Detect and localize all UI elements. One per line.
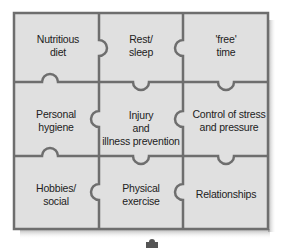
- piece-label: Hobbies/: [36, 182, 76, 195]
- piece-label: hygiene: [36, 121, 76, 134]
- piece-label: exercise: [122, 195, 160, 208]
- piece-label: 'free': [216, 33, 237, 46]
- puzzle-piece-icon: [146, 239, 158, 248]
- piece-label: diet: [37, 46, 79, 59]
- piece-control-of-stress: Control of stress and pressure: [192, 108, 265, 134]
- piece-personal-hygiene: Personal hygiene: [36, 108, 76, 134]
- piece-nutritious-diet: Nutritious diet: [37, 33, 79, 59]
- piece-free-time: 'free' time: [216, 33, 237, 59]
- piece-label: illness prevention: [102, 135, 180, 148]
- piece-rest-sleep: Rest/ sleep: [129, 33, 153, 59]
- piece-label: Personal: [36, 108, 76, 121]
- piece-label: Control of stress: [192, 108, 265, 121]
- piece-label: Rest/: [129, 33, 153, 46]
- piece-label: social: [36, 195, 76, 208]
- piece-relationships: Relationships: [196, 188, 256, 201]
- piece-label: and pressure: [192, 121, 265, 134]
- piece-label: sleep: [129, 46, 153, 59]
- bottom-shadow: [20, 229, 270, 239]
- piece-label: Nutritious: [37, 33, 79, 46]
- piece-label: Physical: [122, 182, 160, 195]
- piece-hobbies-social: Hobbies/ social: [36, 182, 76, 208]
- piece-label: Relationships: [196, 188, 256, 201]
- piece-label: Injury: [102, 109, 180, 122]
- piece-label: and: [102, 122, 180, 135]
- piece-physical-exercise: Physical exercise: [122, 182, 160, 208]
- piece-label: time: [216, 46, 237, 59]
- piece-injury-illness-prevention: Injury and illness prevention: [102, 109, 180, 148]
